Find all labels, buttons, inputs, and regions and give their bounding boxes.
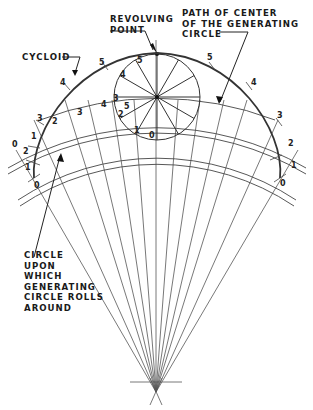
gen-num-0: 0: [149, 131, 155, 140]
gen-num-5: 5: [137, 56, 143, 65]
svg-text:4: 4: [60, 78, 66, 87]
svg-text:0: 0: [12, 140, 18, 149]
svg-text:1: 1: [31, 132, 37, 141]
svg-text:2: 2: [288, 139, 294, 148]
svg-text:5: 5: [207, 53, 213, 62]
svg-text:4: 4: [251, 78, 257, 87]
path-of-center-label: PATH OF CENTER OF THE GENERATING CIRCLE: [182, 8, 299, 40]
svg-text:3: 3: [277, 111, 283, 120]
path-numbers: 2 3 4 3 4 5 1 0 2 1 0 5 4 3 2 1 0: [12, 53, 297, 190]
svg-text:1: 1: [291, 161, 297, 170]
svg-text:1: 1: [25, 163, 31, 172]
svg-text:3: 3: [77, 108, 83, 117]
circle-numbers: 0 1 2 3 4 5 5: [113, 56, 155, 140]
gen-num-3: 3: [113, 94, 119, 103]
svg-text:2: 2: [23, 147, 29, 156]
cycloid-label: CYCLOID: [22, 52, 70, 63]
gen-num-1: 1: [134, 126, 140, 135]
center-dot: [155, 95, 159, 99]
svg-text:4: 4: [101, 100, 107, 109]
svg-text:3: 3: [37, 114, 43, 123]
gen-num-5b: 5: [124, 102, 130, 111]
gen-num-2: 2: [118, 110, 124, 119]
revolving-point-label: REVOLVING POINT: [110, 14, 174, 35]
gen-num-4: 4: [120, 70, 126, 79]
base-circle-label: CIRCLE UPON WHICH GENERATING CIRCLE ROLL…: [24, 250, 104, 313]
svg-text:2: 2: [52, 117, 58, 126]
svg-text:5: 5: [99, 58, 105, 67]
svg-text:0: 0: [34, 181, 40, 190]
svg-text:0: 0: [280, 179, 286, 188]
